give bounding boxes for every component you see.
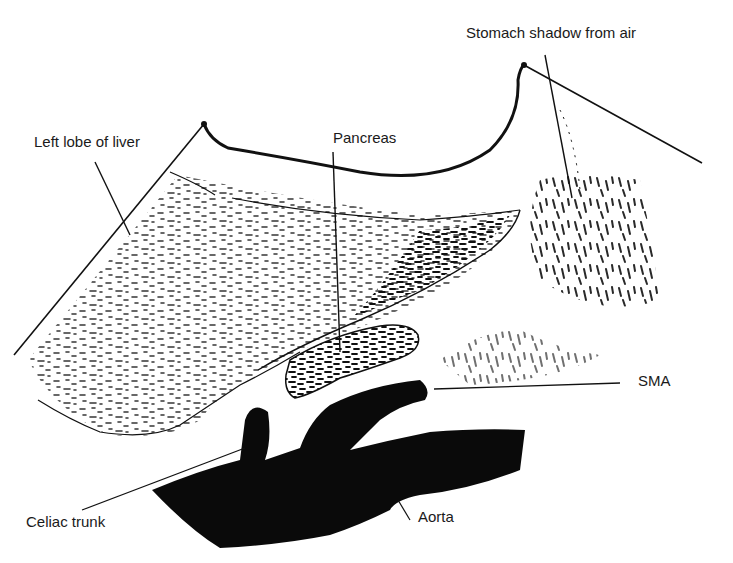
label-celiac-trunk: Celiac trunk <box>26 514 105 529</box>
label-aorta: Aorta <box>418 509 454 524</box>
anatomy-diagram: Stomach shadow from air Left lobe of liv… <box>0 0 733 563</box>
label-sma: SMA <box>638 373 671 388</box>
label-left-lobe-liver: Left lobe of liver <box>34 134 140 149</box>
liver-region <box>28 172 520 436</box>
diagram-drawing <box>0 0 733 563</box>
label-pancreas: Pancreas <box>333 130 396 145</box>
label-stomach-shadow: Stomach shadow from air <box>466 25 636 40</box>
